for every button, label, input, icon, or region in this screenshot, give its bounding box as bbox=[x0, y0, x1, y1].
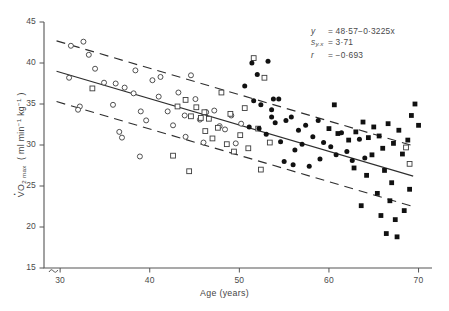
y-tick-label-40: 40 bbox=[14, 57, 36, 67]
data-point-open-circle bbox=[201, 140, 206, 145]
data-point-open-circle bbox=[138, 109, 143, 114]
data-point-filled-square bbox=[332, 102, 337, 107]
data-point-open-square bbox=[171, 153, 176, 158]
data-point-open-circle bbox=[113, 81, 118, 86]
symbol-sy-x: sy.x bbox=[311, 37, 328, 50]
data-point-filled-square bbox=[366, 135, 371, 140]
data-point-filled-circle bbox=[269, 107, 274, 112]
data-point-filled-square bbox=[393, 217, 398, 222]
x-tick-label-70: 70 bbox=[406, 275, 432, 285]
data-point-open-circle bbox=[68, 43, 73, 48]
data-point-filled-circle bbox=[300, 142, 305, 147]
data-point-filled-circle bbox=[292, 147, 297, 152]
data-point-open-square bbox=[215, 125, 220, 130]
data-point-open-square bbox=[258, 167, 263, 172]
data-point-filled-square bbox=[346, 138, 351, 143]
data-point-filled-circle bbox=[242, 83, 247, 88]
data-point-open-square bbox=[219, 90, 224, 95]
data-point-open-square bbox=[232, 149, 237, 154]
data-point-filled-circle bbox=[273, 120, 278, 125]
data-point-filled-square bbox=[336, 131, 341, 136]
data-point-open-circle bbox=[67, 75, 72, 80]
data-point-filled-square bbox=[405, 138, 410, 143]
data-point-open-circle bbox=[182, 113, 187, 118]
data-point-filled-circle bbox=[269, 115, 274, 120]
data-point-filled-circle bbox=[328, 144, 333, 149]
data-point-filled-circle bbox=[307, 164, 312, 169]
data-point-filled-square bbox=[416, 123, 421, 128]
data-point-filled-square bbox=[396, 128, 401, 133]
data-point-open-circle bbox=[193, 97, 198, 102]
x-axis-title: Age (years) bbox=[0, 288, 449, 298]
data-point-filled-circle bbox=[264, 132, 269, 137]
data-point-open-circle bbox=[171, 123, 176, 128]
data-point-filled-circle bbox=[247, 124, 252, 129]
data-point-filled-circle bbox=[310, 134, 315, 139]
data-point-open-circle bbox=[76, 107, 81, 112]
data-point-filled-square bbox=[395, 234, 400, 239]
data-point-open-square bbox=[203, 129, 208, 134]
data-point-open-square bbox=[224, 142, 229, 147]
data-point-open-circle bbox=[86, 52, 91, 57]
data-point-open-square bbox=[206, 116, 211, 121]
data-point-filled-circle bbox=[296, 128, 301, 133]
data-point-filled-circle bbox=[344, 149, 349, 154]
data-point-open-circle bbox=[102, 80, 107, 85]
data-point-open-square bbox=[183, 98, 188, 103]
figure-vo2max-vs-age: 45403530252015 3040506070 VO2 max ( ml m… bbox=[0, 0, 449, 311]
y-tick-label-15: 15 bbox=[14, 262, 36, 272]
data-point-open-circle bbox=[119, 135, 124, 140]
data-point-open-circle bbox=[239, 121, 244, 126]
data-point-open-circle bbox=[188, 73, 193, 78]
data-point-filled-square bbox=[387, 198, 392, 203]
data-point-filled-square bbox=[413, 102, 418, 107]
series-open-circle bbox=[67, 39, 244, 159]
data-point-open-circle bbox=[131, 91, 136, 96]
x-tick-label-30: 30 bbox=[47, 275, 73, 285]
data-point-filled-circle bbox=[258, 102, 263, 107]
data-point-open-square bbox=[251, 56, 256, 61]
regression-line bbox=[57, 71, 414, 176]
data-point-filled-circle bbox=[257, 126, 262, 131]
data-point-filled-square bbox=[359, 203, 364, 208]
data-point-filled-circle bbox=[316, 118, 321, 123]
data-point-open-circle bbox=[183, 134, 188, 139]
data-point-filled-square bbox=[379, 213, 384, 218]
data-point-filled-circle bbox=[249, 61, 254, 66]
data-point-open-circle bbox=[110, 102, 115, 107]
data-point-open-circle bbox=[133, 68, 138, 73]
data-point-open-square bbox=[210, 136, 215, 141]
data-point-filled-circle bbox=[357, 137, 362, 142]
data-point-filled-square bbox=[327, 126, 332, 131]
symbol-r: r bbox=[311, 50, 328, 61]
data-point-filled-square bbox=[361, 120, 366, 125]
data-point-open-square bbox=[262, 75, 267, 80]
correlation-value: = −0·693 bbox=[328, 50, 363, 60]
data-point-filled-square bbox=[409, 113, 414, 118]
data-point-open-square bbox=[202, 110, 207, 115]
data-point-filled-circle bbox=[271, 97, 276, 102]
data-point-filled-square bbox=[353, 129, 358, 134]
data-point-open-circle bbox=[223, 127, 228, 132]
correlation-row: r= −0·693 bbox=[311, 50, 395, 61]
data-point-open-circle bbox=[122, 85, 127, 90]
y-tick-label-20: 20 bbox=[14, 221, 36, 231]
data-point-open-circle bbox=[212, 108, 217, 113]
data-point-open-square bbox=[246, 146, 251, 151]
data-point-open-square bbox=[407, 161, 412, 166]
data-point-filled-circle bbox=[282, 159, 287, 164]
data-point-open-square bbox=[90, 86, 95, 91]
data-point-open-circle bbox=[117, 129, 122, 134]
data-point-open-square bbox=[242, 106, 247, 111]
x-tick-label-50: 50 bbox=[226, 275, 252, 285]
data-point-open-square bbox=[187, 169, 192, 174]
x-tick-label-60: 60 bbox=[316, 275, 342, 285]
y-tick-label-45: 45 bbox=[14, 16, 36, 26]
data-point-open-square bbox=[238, 133, 243, 138]
data-point-open-circle bbox=[165, 109, 170, 114]
data-point-filled-circle bbox=[291, 162, 296, 167]
data-point-filled-circle bbox=[266, 59, 271, 64]
standard-error-value: = 3·71 bbox=[328, 37, 353, 47]
data-point-open-square bbox=[175, 104, 180, 109]
data-point-filled-circle bbox=[278, 139, 283, 144]
